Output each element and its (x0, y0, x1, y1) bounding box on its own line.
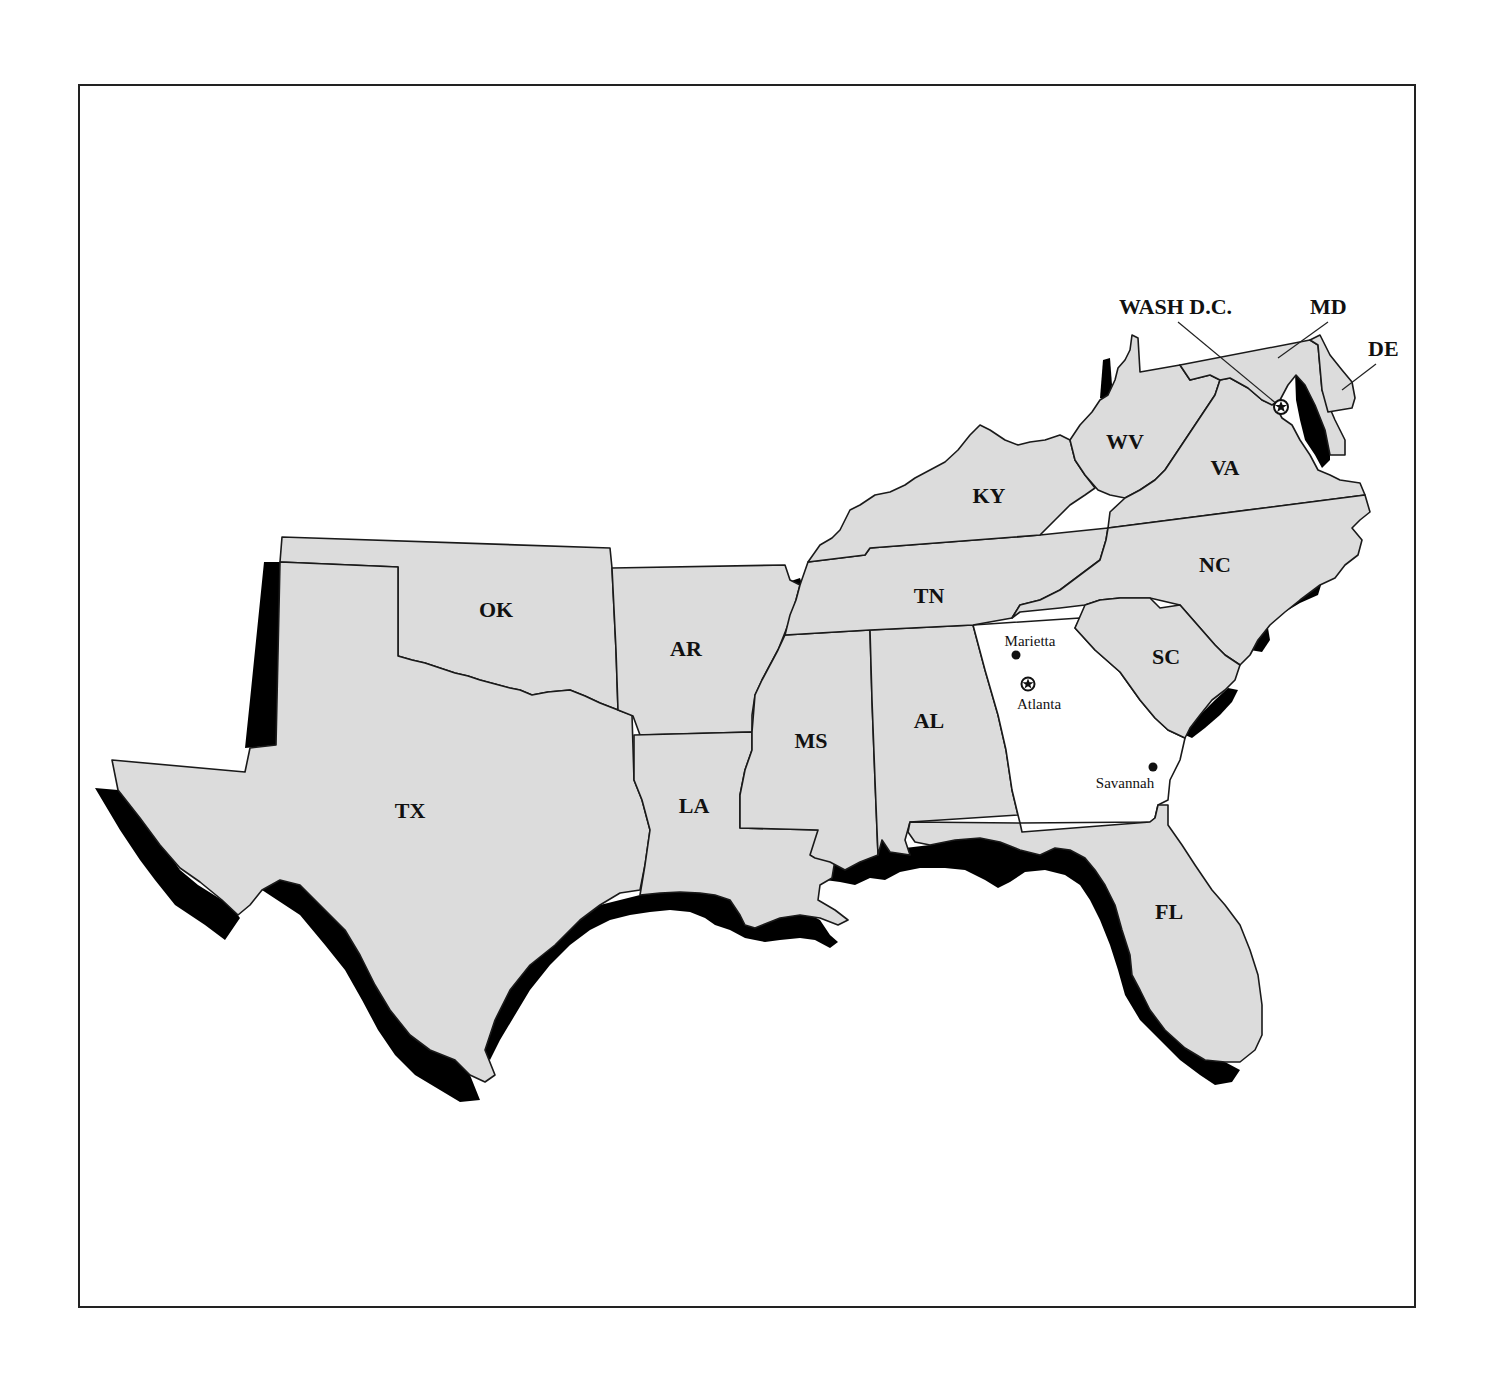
label-de: DE (1368, 336, 1399, 361)
label-fl: FL (1155, 899, 1183, 924)
label-tn: TN (914, 583, 945, 608)
label-va: VA (1211, 455, 1240, 480)
label-la: LA (679, 793, 710, 818)
marietta-label: Marietta (1005, 633, 1056, 649)
label-ar: AR (670, 636, 703, 661)
label-ok: OK (479, 597, 513, 622)
label-tx: TX (395, 798, 426, 823)
label-wv: WV (1106, 429, 1144, 454)
states (112, 335, 1370, 1082)
label-al: AL (914, 708, 945, 733)
label-ky: KY (973, 483, 1006, 508)
label-md: MD (1310, 294, 1347, 319)
label-wash-dc: WASH D.C. (1119, 294, 1232, 319)
southern-states-map: TX OK AR LA MS AL TN KY WV VA NC SC FL W… (0, 0, 1506, 1374)
label-ms: MS (795, 728, 828, 753)
savannah-label: Savannah (1096, 775, 1155, 791)
dc-capital-star-icon (1274, 400, 1288, 414)
marietta-dot-icon (1012, 651, 1021, 660)
atlanta-capital-star-icon (1022, 678, 1035, 691)
label-nc: NC (1199, 552, 1231, 577)
label-sc: SC (1152, 644, 1180, 669)
atlanta-label: Atlanta (1017, 696, 1061, 712)
savannah-dot-icon (1149, 763, 1158, 772)
